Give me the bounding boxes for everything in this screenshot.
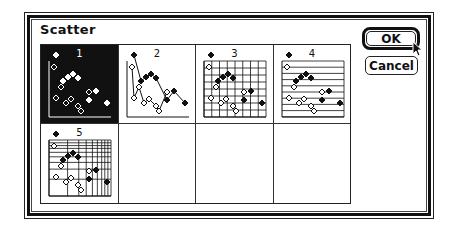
gallery-cell-3[interactable]: 3 <box>196 45 274 124</box>
gallery-cell-1[interactable]: 1 <box>41 45 119 124</box>
gallery-cell-8[interactable] <box>274 124 350 203</box>
cancel-button[interactable]: Cancel <box>365 56 418 75</box>
scatter-lines-thumbnail-icon <box>119 45 195 123</box>
arrow-pointer-icon <box>412 41 424 57</box>
ok-button[interactable]: OK <box>366 31 416 46</box>
scatter-plain-thumbnail-icon <box>41 45 118 123</box>
gallery-cell-2[interactable]: 2 <box>119 45 196 124</box>
gallery-cell-5[interactable]: 5 <box>41 124 119 203</box>
gallery-cell-6[interactable] <box>119 124 196 203</box>
dialog-title: Scatter <box>40 22 96 37</box>
scatter-hgrid-thumbnail-icon <box>274 45 350 123</box>
scatter-log-grid-thumbnail-icon <box>41 124 118 202</box>
chart-format-gallery: 1 2 3 4 5 <box>40 44 351 204</box>
gallery-cell-7[interactable] <box>196 124 274 203</box>
gallery-cell-4[interactable]: 4 <box>274 45 350 124</box>
scatter-grid-thumbnail-icon <box>196 45 273 123</box>
